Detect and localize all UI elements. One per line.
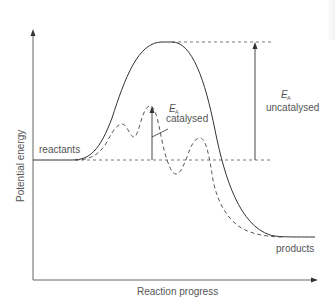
uncatalysed-curve xyxy=(33,42,315,237)
reactants-label: reactants xyxy=(39,144,80,155)
x-axis xyxy=(33,278,318,283)
catalysed-ea-arrow xyxy=(150,106,155,160)
products-label: products xyxy=(276,243,314,254)
uncatalysed-text: uncatalysed xyxy=(266,102,319,113)
catalysed-curve xyxy=(75,106,285,237)
uncatalysed-ea-arrow xyxy=(253,42,258,160)
energy-profile-diagram: E A catalysed E A uncatalysed reactants … xyxy=(0,0,335,303)
catalysed-text: catalysed xyxy=(166,113,208,124)
uncatalysed-ea-subscript: A xyxy=(287,95,291,101)
uncatalysed-ea-label: E A uncatalysed xyxy=(266,89,319,113)
page-edge-shadow xyxy=(327,0,335,40)
y-axis xyxy=(31,29,36,280)
x-axis-label: Reaction progress xyxy=(137,286,218,297)
catalysed-ea-label: E A catalysed xyxy=(166,103,208,124)
diagram-canvas: E A catalysed E A uncatalysed reactants … xyxy=(0,0,335,303)
catalysed-leader-line xyxy=(152,129,168,137)
y-axis-label: Potential energy xyxy=(15,130,26,202)
